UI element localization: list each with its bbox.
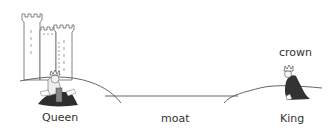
king-figure-icon [284,65,310,100]
crown-label: crown [279,47,312,58]
king-label: King [280,113,304,124]
queen-label: Queen [42,112,78,123]
castle-icon [22,14,74,80]
moat-label: moat [161,113,190,124]
right-hill [224,86,322,103]
castle-moat-scene: Queen moat King crown [0,0,331,138]
